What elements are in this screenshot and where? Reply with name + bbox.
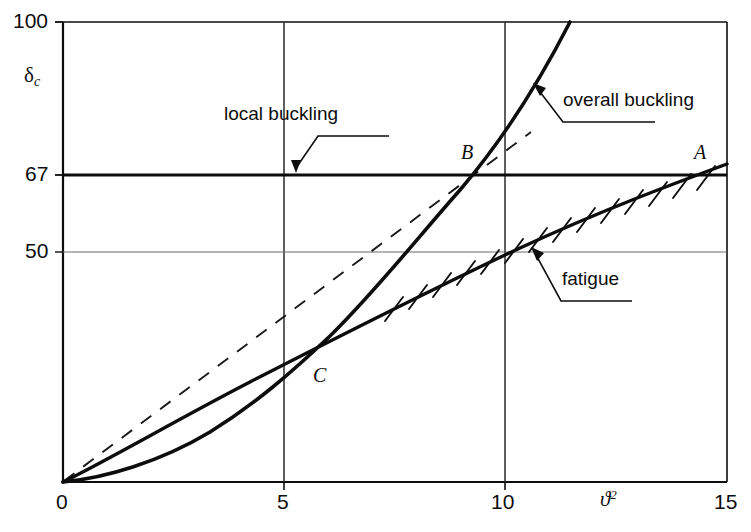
x-axis-label-symbol: ϑ: [600, 487, 610, 511]
y-axis-label-symbol: δ: [24, 63, 34, 87]
arrowhead-fatigue: [531, 247, 544, 261]
point-label-b: B: [461, 141, 473, 164]
y-tick-label-67: 67: [25, 162, 48, 186]
y-tick-label-100: 100: [13, 9, 48, 33]
annotation-fatigue: fatigue: [562, 268, 619, 290]
series-tangent-dashed: [64, 132, 531, 481]
fatigue-hatching: [385, 166, 715, 321]
tick-marks: [55, 22, 505, 490]
arrowhead-overall-buckling: [533, 83, 546, 96]
x-tick-label-0: 0: [56, 490, 68, 514]
chart-figure: 100 67 50 0 5 10 15 δc ϑ2 local buckling…: [0, 0, 751, 532]
x-axis-label-superscript: 2: [610, 487, 617, 502]
chart-canvas: [0, 0, 751, 532]
arrowhead-local-buckling: [291, 160, 301, 173]
x-tick-label-15: 15: [714, 490, 737, 514]
point-label-c: C: [313, 364, 326, 387]
y-axis-label-subscript: c: [34, 74, 40, 89]
y-axis-label: δc: [24, 63, 40, 90]
y-tick-label-50: 50: [25, 239, 48, 263]
point-label-a: A: [694, 141, 706, 164]
x-axis-label: ϑ2: [600, 487, 617, 512]
annotation-overall-buckling: overall buckling: [563, 89, 694, 111]
x-tick-label-10: 10: [491, 490, 514, 514]
series-fatigue: [63, 164, 727, 482]
x-tick-label-5: 5: [277, 490, 289, 514]
annotation-local-buckling: local buckling: [224, 103, 338, 125]
